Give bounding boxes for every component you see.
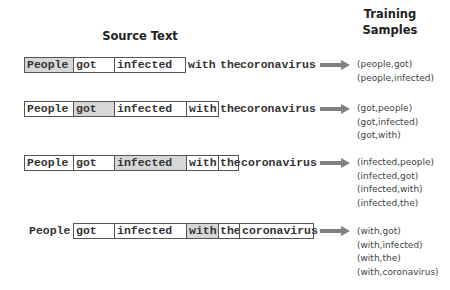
word-with-target: with xyxy=(186,223,218,239)
sample-pair: (with,the) xyxy=(357,252,439,266)
word-got-target: got xyxy=(73,101,114,117)
word-infected: infected xyxy=(114,101,186,117)
word-people: People xyxy=(24,101,73,117)
word-got: got xyxy=(73,155,114,171)
arrow-right-icon xyxy=(320,158,350,168)
word-the: the xyxy=(218,102,239,116)
word-people-target: People xyxy=(24,57,73,73)
word-people: People xyxy=(27,224,73,238)
word-infected-target: infected xyxy=(114,155,186,171)
samples-list-4: (with,got) (with,infected) (with,the) (w… xyxy=(357,225,439,279)
sample-pair: (with,infected) xyxy=(357,239,439,253)
sample-pair: (infected,got) xyxy=(357,170,434,184)
sample-pair: (infected,the) xyxy=(357,197,434,211)
word-got: got xyxy=(73,223,114,239)
training-samples-title-line2: Samples xyxy=(355,22,425,38)
sample-pair: (with,got) xyxy=(357,225,439,239)
word-infected: infected xyxy=(114,57,186,73)
word-with: with xyxy=(186,58,218,72)
word-coronavirus: coronavirus xyxy=(239,223,314,239)
arrow-right-icon xyxy=(320,226,350,236)
training-samples-title: Training Samples xyxy=(355,6,425,38)
sample-pair: (got,infected) xyxy=(357,116,418,130)
sample-pair: (infected,people) xyxy=(357,156,434,170)
samples-list-1: (people,got) (people,infected) xyxy=(357,58,434,85)
word-got: got xyxy=(73,57,114,73)
samples-list-2: (got,people) (got,infected) (got,with) xyxy=(357,102,418,143)
sample-pair: (people,got) xyxy=(357,58,434,72)
sample-pair: (got,people) xyxy=(357,102,418,116)
sample-pair: (with,coronavirus) xyxy=(357,266,439,280)
arrow-right-icon xyxy=(320,60,350,70)
word-with: with xyxy=(186,101,219,117)
word-coronavirus: coronavirus xyxy=(238,102,318,116)
word-infected: infected xyxy=(114,223,186,239)
word-with: with xyxy=(186,155,218,171)
word-the: the xyxy=(218,155,239,171)
word-people: People xyxy=(24,155,73,171)
arrow-right-icon xyxy=(320,104,350,114)
sample-pair: (infected,with) xyxy=(357,183,434,197)
samples-list-3: (infected,people) (infected,got) (infect… xyxy=(357,156,434,210)
word-the: the xyxy=(218,223,239,239)
sample-pair: (people,infected) xyxy=(357,72,434,86)
sample-pair: (got,with) xyxy=(357,129,418,143)
word-coronavirus: coronavirus xyxy=(238,58,318,72)
word-coronavirus: coronavirus xyxy=(239,156,319,170)
training-samples-title-line1: Training xyxy=(355,6,425,22)
source-text-title: Source Text xyxy=(90,29,190,43)
word-the: the xyxy=(218,58,239,72)
